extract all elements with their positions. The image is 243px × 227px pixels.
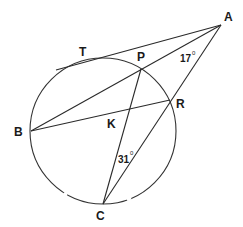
angle-label-a: 17 bbox=[180, 53, 192, 64]
point-label-c: C bbox=[96, 209, 105, 223]
chord-pc bbox=[103, 69, 141, 204]
point-label-p: P bbox=[137, 50, 145, 64]
point-label-r: R bbox=[176, 97, 185, 111]
angle-degree-c: 0 bbox=[130, 150, 134, 156]
secant-line-ab bbox=[31, 25, 221, 131]
point-label-b: B bbox=[14, 125, 23, 139]
point-label-a: A bbox=[224, 10, 233, 24]
circle bbox=[30, 58, 176, 204]
angle-label-c: 31 bbox=[118, 154, 130, 165]
chord-br bbox=[31, 100, 170, 131]
arc-gap-right bbox=[127, 198, 131, 200]
arc-gap-left bbox=[64, 193, 67, 195]
point-label-k: K bbox=[107, 117, 116, 131]
angle-degree-a: 0 bbox=[192, 50, 196, 56]
point-label-t: T bbox=[79, 45, 87, 59]
geometry-diagram: A T P R B K C 17 0 31 0 bbox=[0, 0, 243, 227]
